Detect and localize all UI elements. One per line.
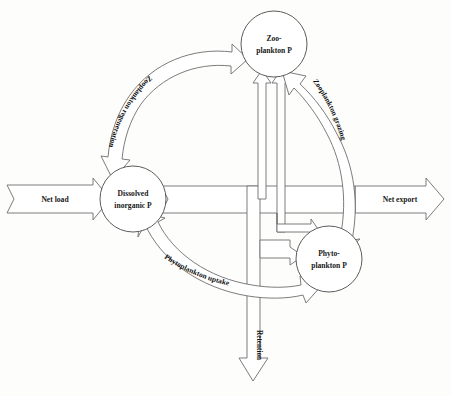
node-dissolved-line1: Dissolved: [118, 189, 150, 198]
node-zooplankton-line2: plankton P: [256, 46, 292, 55]
retention-label: Retention: [255, 330, 263, 360]
phosphorus-cycle-diagram: Zoo- plankton P Dissolved inorganic P Ph…: [0, 0, 451, 396]
node-zooplankton: Zoo- plankton P: [241, 11, 307, 77]
node-zooplankton-line1: Zoo-: [266, 34, 282, 43]
node-phytoplankton-line1: Phyto-: [318, 249, 340, 258]
zooplankton-inflow-left: [253, 70, 271, 199]
phytoplankton-uptake-label: Phytoplankton uptake: [163, 252, 231, 287]
diagram-canvas: Zoo- plankton P Dissolved inorganic P Ph…: [0, 0, 451, 396]
net-load-label: Net load: [41, 195, 69, 204]
node-phytoplankton-line2: plankton P: [311, 261, 347, 270]
node-dissolved-inorganic-p: Dissolved inorganic P: [100, 166, 166, 232]
node-dissolved-line2: inorganic P: [114, 201, 152, 210]
node-phytoplankton: Phyto- plankton P: [296, 226, 362, 292]
net-export-label: Net export: [383, 195, 418, 204]
